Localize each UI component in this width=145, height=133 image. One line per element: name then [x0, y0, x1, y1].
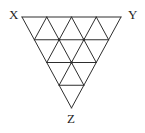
- grid-junction-dot: [70, 61, 73, 64]
- figure-canvas: X Y Z: [0, 0, 145, 133]
- vertex-label-z: Z: [67, 112, 75, 125]
- grid-junction-dot: [58, 38, 61, 41]
- vertex-label-y: Y: [128, 8, 137, 21]
- vertex-label-x: X: [9, 8, 18, 21]
- grid-junction-dot: [83, 38, 86, 41]
